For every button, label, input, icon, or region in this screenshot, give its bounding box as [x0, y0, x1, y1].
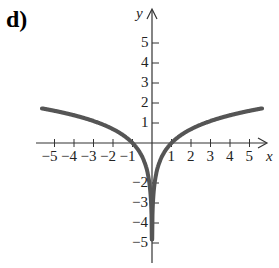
curve-right-branch — [152, 108, 262, 239]
x-axis-label: x — [266, 149, 273, 164]
x-tick-label: 2 — [187, 149, 195, 164]
x-tick-label: 1 — [168, 149, 176, 164]
x-tick-label: −1 — [120, 149, 136, 164]
y-tick-label: 3 — [141, 75, 149, 90]
y-tick-label: −3 — [132, 195, 148, 210]
y-tick-label: 5 — [141, 35, 149, 50]
x-tick-label: 5 — [246, 149, 254, 164]
y-tick-label: −5 — [132, 235, 148, 250]
x-tick-label: −3 — [81, 149, 97, 164]
x-tick-label: 3 — [207, 149, 215, 164]
y-axis-label: y — [136, 6, 143, 21]
x-tick-label: −4 — [61, 149, 77, 164]
x-tick-label: 4 — [226, 149, 234, 164]
x-tick-label: −2 — [100, 149, 116, 164]
x-tick-label: −5 — [42, 149, 58, 164]
y-tick-label: 2 — [141, 95, 149, 110]
chart: d) −5−4−3−2−112345−5−4−3−212345xy — [0, 0, 279, 268]
y-tick-label: −4 — [132, 215, 148, 230]
y-tick-label: 1 — [141, 115, 149, 130]
y-tick-label: 4 — [141, 55, 149, 70]
y-tick-label: −2 — [132, 175, 148, 190]
